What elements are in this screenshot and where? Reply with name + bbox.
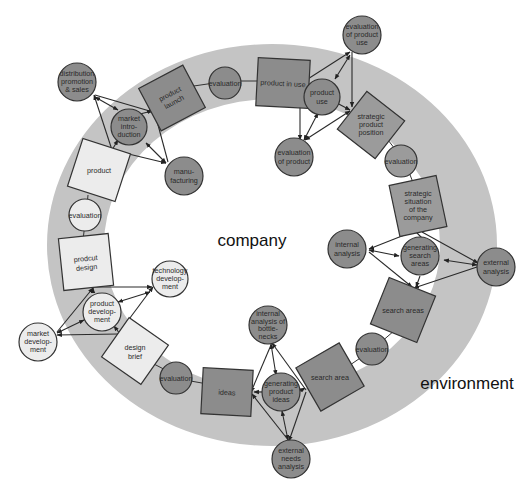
node-strategic-situation: strategicsituationof thecompany bbox=[389, 176, 447, 237]
svg-text:evaluation: evaluation bbox=[385, 157, 418, 166]
svg-text:search area: search area bbox=[311, 373, 349, 382]
svg-text:evaluationof product: evaluationof product bbox=[278, 148, 311, 166]
node-evaluation-lower-right: evaluation bbox=[356, 333, 389, 365]
node-technology-development: technologydevelop-ment bbox=[152, 261, 188, 297]
node-evaluation-bottom: evaluation bbox=[160, 362, 193, 394]
svg-text:product: product bbox=[87, 166, 111, 175]
node-evaluation-of-product-use: evaluationof productuse bbox=[343, 16, 381, 54]
node-external-analysis: externalanalysis bbox=[477, 248, 515, 286]
node-generating-product-ideas: generatingproductideas bbox=[262, 373, 300, 411]
node-product-use: productuse bbox=[304, 79, 340, 115]
svg-text:marketintro-duction: marketintro-duction bbox=[117, 114, 140, 139]
svg-text:ideas: ideas bbox=[218, 388, 236, 398]
svg-text:externalanalysis: externalanalysis bbox=[483, 258, 509, 276]
svg-text:externalneedsanalysis: externalneedsanalysis bbox=[278, 446, 304, 471]
node-internal-analysis: internalanalysis bbox=[328, 230, 366, 268]
node-external-needs-analysis: externalneedsanalysis bbox=[272, 440, 310, 478]
node-internal-analysis-bottlenecks: internalanalysis ofbottle-necks bbox=[249, 306, 287, 344]
node-manufacturing: manu-facturing bbox=[165, 157, 203, 195]
node-evaluation-right: evaluation bbox=[385, 145, 418, 177]
node-evaluation-of-product: evaluationof product bbox=[275, 138, 313, 176]
node-distribution: distributionpromotion& sales bbox=[58, 63, 96, 101]
node-generating-search-areas: generatingsearchareas bbox=[401, 237, 439, 275]
svg-text:evaluation: evaluation bbox=[69, 211, 102, 220]
svg-text:evaluation: evaluation bbox=[356, 345, 389, 354]
node-evaluation-left: evaluation bbox=[69, 199, 102, 231]
svg-text:strategicsituationof thecompan: strategicsituationof thecompany bbox=[403, 189, 433, 222]
svg-text:manu-facturing: manu-facturing bbox=[170, 167, 198, 185]
svg-text:prodcutdesign: prodcutdesign bbox=[73, 253, 99, 273]
node-evaluation-top: evaluation bbox=[209, 67, 242, 99]
node-prodcut-design: prodcutdesign bbox=[58, 234, 113, 291]
node-market-introduction: marketintro-duction bbox=[111, 109, 147, 145]
node-product-development: productdevelop-ment bbox=[83, 293, 121, 331]
svg-text:internalanalysis: internalanalysis bbox=[334, 240, 360, 258]
node-market-development: marketdevelop-ment bbox=[19, 323, 57, 361]
node-ideas: ideas bbox=[201, 368, 253, 417]
label-environment: environment bbox=[420, 374, 514, 393]
svg-text:search areas: search areas bbox=[382, 306, 424, 315]
svg-text:evaluation: evaluation bbox=[209, 79, 242, 88]
label-company: company bbox=[218, 231, 287, 250]
node-product-in-use: product in use bbox=[256, 58, 310, 109]
svg-text:evaluation: evaluation bbox=[160, 374, 193, 383]
product-development-cycle-diagram: productlaunch product in use strategicpr… bbox=[0, 0, 530, 492]
svg-text:strategicproductposition: strategicproductposition bbox=[357, 112, 385, 137]
